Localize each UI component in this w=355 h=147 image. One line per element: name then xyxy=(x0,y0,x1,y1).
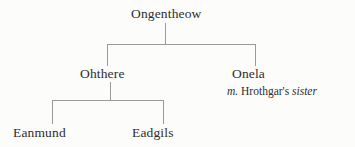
marriage-marker: m. xyxy=(227,85,238,97)
connector-drop-ohthere xyxy=(107,44,108,66)
connector-drop-onela xyxy=(255,44,256,66)
connector-drop-eanmund xyxy=(52,100,53,124)
connector-ongentheow-stem xyxy=(165,23,166,45)
connector-generation1-bar xyxy=(107,44,256,45)
marriage-spouse-name: Hrothgar's xyxy=(241,85,289,97)
marriage-annotation-onela: m. Hrothgar's sister xyxy=(227,85,317,98)
node-ohthere: Ohthere xyxy=(80,66,125,81)
connector-ohthere-stem xyxy=(110,82,111,101)
node-onela: Onela xyxy=(232,66,265,81)
marriage-relation: sister xyxy=(292,85,317,97)
node-ongentheow: Ongentheow xyxy=(131,6,201,21)
connector-drop-eadgils xyxy=(163,100,164,124)
node-eadgils: Eadgils xyxy=(132,125,174,140)
family-tree-diagram: Ongentheow Ohthere Onela m. Hrothgar's s… xyxy=(0,0,355,147)
connector-generation2-bar xyxy=(52,100,164,101)
node-eanmund: Eanmund xyxy=(13,125,66,140)
